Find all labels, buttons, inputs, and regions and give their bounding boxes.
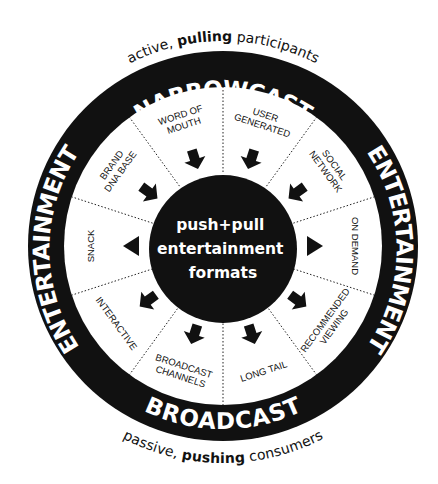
center-line-1: push+pull bbox=[176, 216, 264, 234]
segment-label-line: ON DEMAND bbox=[350, 217, 361, 275]
caption-bottom-bold: pushing bbox=[181, 446, 246, 466]
segment-label: SNACK bbox=[85, 229, 96, 262]
center-line-2: entertainment bbox=[157, 240, 284, 258]
center-line-3: formats bbox=[189, 264, 257, 282]
segment-label: ON DEMAND bbox=[350, 217, 361, 275]
segment-label-line: SNACK bbox=[85, 229, 96, 262]
push-pull-diagram: USERGENERATEDSOCIALNETWORKON DEMANDRECOM… bbox=[0, 0, 438, 484]
caption-top-bold: pulling bbox=[175, 28, 232, 49]
